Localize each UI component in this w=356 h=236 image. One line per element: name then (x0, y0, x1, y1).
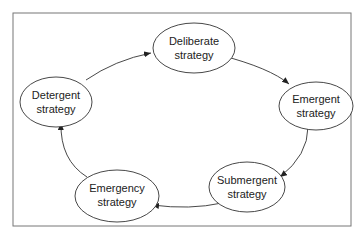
node-label: strategy (174, 49, 214, 61)
node-detergent-strategy: Detergent strategy (20, 77, 92, 127)
node-emergency-strategy: Emergency strategy (75, 170, 159, 222)
node-label: strategy (36, 103, 76, 115)
node-label: Emergent (292, 93, 340, 105)
node-label: Deliberate (169, 35, 219, 47)
node-emergent-strategy: Emergent strategy (279, 82, 353, 130)
strategy-cycle-diagram: Deliberate strategy Emergent strategy Su… (0, 0, 356, 236)
node-label: strategy (296, 107, 336, 119)
node-label: Emergency (89, 182, 145, 194)
node-label: Detergent (32, 89, 80, 101)
node-label: strategy (97, 196, 137, 208)
node-submergent-strategy: Submergent strategy (209, 162, 285, 212)
node-label: strategy (227, 188, 267, 200)
node-label: Submergent (217, 174, 277, 186)
node-deliberate-strategy: Deliberate strategy (153, 23, 235, 73)
